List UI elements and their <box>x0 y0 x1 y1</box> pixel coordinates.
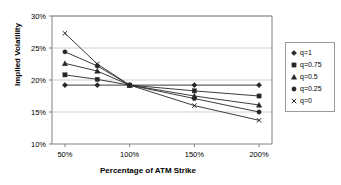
x-tick-label: 50% <box>57 150 72 159</box>
y-tick-label: 30% <box>31 12 46 21</box>
data-point-marker <box>95 83 100 88</box>
chart-legend: q=1q=0.75q=0.5q=0.25q=0 <box>285 42 335 112</box>
x-tick-label: 150% <box>185 150 205 159</box>
data-point-marker <box>192 89 196 93</box>
legend-item-label: q=0.25 <box>300 83 322 95</box>
data-point-marker <box>192 96 196 100</box>
x-axis-title: Percentage of ATM Strike <box>33 166 263 175</box>
data-point-marker <box>63 50 67 54</box>
legend-item[interactable]: q=0.75 <box>290 59 334 71</box>
data-series-markers <box>62 31 262 122</box>
legend-item[interactable]: q=0.25 <box>290 83 334 95</box>
y-tick-label: 20% <box>31 76 46 85</box>
triangle-marker <box>291 74 296 79</box>
legend-item-label: q=0.75 <box>300 59 322 71</box>
data-point-marker <box>257 110 261 114</box>
legend-item-label: q=0.5 <box>300 71 318 83</box>
y-tick-label: 25% <box>31 44 46 53</box>
triangle-marker <box>290 71 300 83</box>
diamond-marker <box>291 50 296 55</box>
diamond-marker <box>290 47 300 59</box>
data-series-lines <box>65 33 259 120</box>
series-line <box>65 63 259 105</box>
x-marker <box>290 95 300 107</box>
data-point-marker <box>63 31 67 35</box>
data-point-marker <box>63 73 67 77</box>
circle-marker <box>290 83 300 95</box>
gridlines <box>52 16 272 112</box>
y-axis-tick-labels: 10%15%20%25%30% <box>31 12 52 149</box>
square-marker <box>290 59 300 71</box>
y-tick-label: 15% <box>31 108 46 117</box>
legend-item-label: q=1 <box>300 47 312 59</box>
data-point-marker <box>257 94 261 98</box>
legend-item-label: q=0 <box>300 95 312 107</box>
x-tick-label: 200% <box>249 150 269 159</box>
x-tick-label: 100% <box>120 150 140 159</box>
data-point-marker <box>256 83 261 88</box>
legend-item[interactable]: q=0 <box>290 95 334 107</box>
x-marker <box>292 99 296 103</box>
data-point-marker <box>192 83 197 88</box>
data-point-marker <box>62 61 67 66</box>
x-axis-tick-labels: 50%100%150%200% <box>57 144 269 159</box>
data-point-marker <box>62 83 67 88</box>
chart-screenshot: Implied Volatility 10%15%20%25%30% 50%10… <box>0 0 341 185</box>
legend-item[interactable]: q=0.5 <box>290 71 334 83</box>
legend-item[interactable]: q=1 <box>290 47 334 59</box>
data-point-marker <box>95 77 99 81</box>
circle-marker <box>292 87 296 91</box>
y-tick-label: 10% <box>31 140 46 149</box>
square-marker <box>292 63 296 67</box>
series-line <box>65 33 259 120</box>
